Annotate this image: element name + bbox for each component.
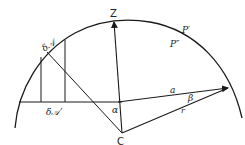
label-beta: β [187,93,193,103]
geometry-diagram: Z P′ P″ δ𝒜 δ𝒜′ α a β r C [0,0,245,145]
label-p-prime: P′ [181,25,190,35]
zenith-vector [114,22,122,133]
label-delta-arc-top: δ𝒜 [40,36,59,54]
label-p-double-prime: P″ [169,39,180,49]
label-alpha: α [112,105,118,115]
label-z: Z [110,8,117,19]
diagonal-line [47,52,122,133]
label-a: a [170,85,175,95]
label-c: C [117,136,124,145]
label-r: r [181,106,186,115]
label-delta-arc-bottom: δ𝒜′ [46,107,62,117]
